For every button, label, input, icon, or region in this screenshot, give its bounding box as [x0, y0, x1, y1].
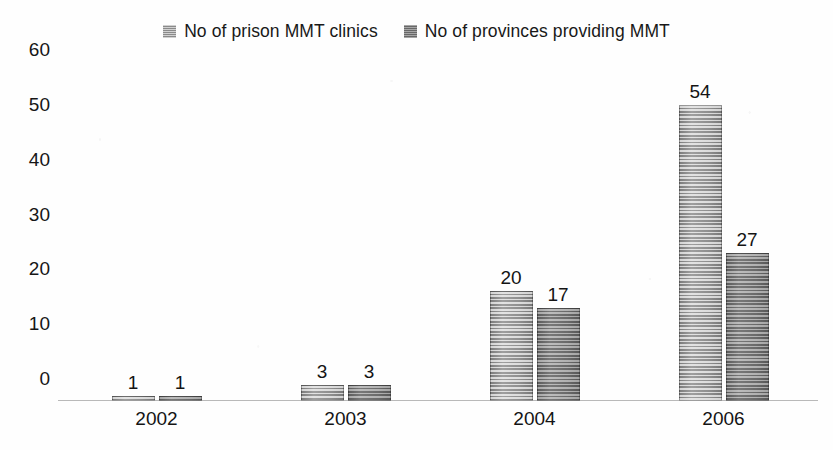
bar-2002-series-1[interactable]: 1: [112, 396, 155, 401]
bar-group-2006: 54272006: [629, 72, 818, 401]
legend-label-series-1: No of prison MMT clinics: [184, 21, 378, 42]
bar-wrapper: 17: [537, 308, 580, 401]
x-axis-tick-2002: 2002: [135, 408, 177, 430]
bar-value-label: 1: [175, 372, 186, 394]
bar-value-label: 3: [317, 361, 328, 383]
legend-item-prison-mmt-clinics: No of prison MMT clinics: [163, 21, 378, 42]
bar-2003-series-1[interactable]: 3: [301, 385, 344, 401]
bar-wrapper: 3: [348, 385, 391, 401]
bar-group-2003: 332003: [251, 72, 440, 401]
bar-2004-series-2[interactable]: 17: [537, 308, 580, 401]
y-axis-tick-60: 60: [29, 39, 50, 61]
bar-value-label: 20: [500, 267, 521, 289]
bar-group-2004: 20172004: [440, 72, 629, 401]
bar-2006-series-2[interactable]: 27: [726, 253, 769, 401]
bar-value-label: 1: [128, 372, 139, 394]
legend-swatch-icon-series-2: [404, 25, 417, 38]
bar-value-label: 54: [689, 81, 710, 103]
bar-value-label: 17: [547, 284, 568, 306]
y-axis-tick-0: 0: [39, 368, 50, 390]
y-axis-tick-10: 10: [29, 313, 50, 335]
bar-2002-series-2[interactable]: 1: [159, 396, 202, 401]
bar-wrapper: 1: [159, 396, 202, 401]
bar-2004-series-1[interactable]: 20: [490, 291, 533, 401]
bar-chart: No of prison MMT clinics No of provinces…: [0, 0, 833, 450]
y-axis-tick-20: 20: [29, 258, 50, 280]
y-axis-tick-30: 30: [29, 204, 50, 226]
y-axis-tick-50: 50: [29, 94, 50, 116]
x-axis-tick-2003: 2003: [324, 408, 366, 430]
bar-2003-series-2[interactable]: 3: [348, 385, 391, 401]
x-axis-tick-2004: 2004: [513, 408, 555, 430]
legend-swatch-icon-series-1: [163, 25, 176, 38]
bar-wrapper: 54: [679, 105, 722, 401]
chart-legend: No of prison MMT clinics No of provinces…: [0, 21, 833, 42]
bar-wrapper: 1: [112, 396, 155, 401]
y-axis-tick-40: 40: [29, 149, 50, 171]
x-axis-tick-2006: 2006: [702, 408, 744, 430]
legend-item-provinces-providing-mmt: No of provinces providing MMT: [404, 21, 670, 42]
bar-group-2002: 112002: [62, 72, 251, 401]
bar-2006-series-1[interactable]: 54: [679, 105, 722, 401]
bar-value-label: 3: [364, 361, 375, 383]
bar-wrapper: 27: [726, 253, 769, 401]
bar-value-label: 27: [736, 229, 757, 251]
bar-wrapper: 3: [301, 385, 344, 401]
plot-area: 0102030405060 11200233200320172004542720…: [62, 72, 818, 401]
bar-wrapper: 20: [490, 291, 533, 401]
legend-label-series-2: No of provinces providing MMT: [425, 21, 670, 42]
